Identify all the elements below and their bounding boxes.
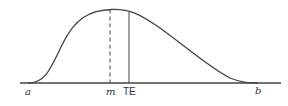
label-m: m — [106, 87, 115, 97]
distribution-curve — [28, 9, 258, 83]
label-te: TE — [123, 87, 136, 97]
label-b: b — [255, 86, 261, 96]
distribution-diagram — [0, 0, 288, 106]
label-a: a — [25, 87, 31, 97]
